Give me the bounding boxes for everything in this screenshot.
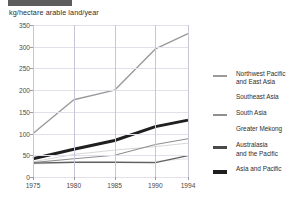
gridline-horizontal [33, 177, 188, 178]
gridline-horizontal [33, 68, 188, 69]
legend-swatch-icon [213, 75, 227, 77]
y-axis-tick-mark [30, 25, 33, 26]
legend-item[interactable]: Greater Mekong [213, 125, 291, 134]
series-line [33, 120, 188, 159]
legend-item-label: Southeast Asia [236, 93, 291, 101]
x-axis-tick-label: 1980 [66, 182, 81, 189]
y-axis-tick-labels: 050100150200250300350 [0, 25, 30, 177]
gridline-horizontal [33, 134, 188, 135]
series-line [33, 156, 188, 163]
legend-swatch-icon [213, 130, 227, 131]
legend-swatch-icon [213, 146, 227, 149]
series-lines [33, 25, 188, 177]
legend-item-label: Greater Mekong [236, 125, 291, 133]
y-axis-tick-mark [30, 155, 33, 156]
y-axis-tick-mark [30, 68, 33, 69]
y-axis-tick-label: 350 [19, 22, 30, 29]
legend-swatch-icon [213, 170, 227, 174]
y-axis-tick-label: 250 [19, 65, 30, 72]
legend-item[interactable]: Australasiaand the Pacific [213, 141, 291, 157]
gridline-horizontal [33, 47, 188, 48]
gridline-vertical [155, 25, 156, 177]
y-axis-unit-label: kg/hectare arable land/year [9, 8, 99, 17]
gridline-vertical [188, 25, 189, 177]
gridline-vertical [33, 25, 34, 177]
x-axis-tick-mark [155, 177, 156, 180]
legend-item[interactable]: Southeast Asia [213, 93, 291, 102]
chart-legend: Northwest Pacificand East AsiaSoutheast … [213, 70, 291, 181]
x-axis-tick-mark [188, 177, 189, 180]
y-axis-tick-label: 300 [19, 43, 30, 50]
y-axis-tick-label: 100 [19, 130, 30, 137]
y-axis-tick-label: 150 [19, 108, 30, 115]
gridline-horizontal [33, 90, 188, 91]
x-axis-tick-label: 1994 [181, 182, 196, 189]
gridline-vertical [74, 25, 75, 177]
x-axis-tick-mark [33, 177, 34, 180]
y-axis-tick-mark [30, 90, 33, 91]
gridline-horizontal [33, 112, 188, 113]
chart-figure: kg/hectare arable land/year 050100150200… [0, 0, 291, 200]
gridline-horizontal [33, 25, 188, 26]
y-axis-tick-mark [30, 112, 33, 113]
x-axis-tick-label: 1985 [107, 182, 122, 189]
plot-area [33, 25, 188, 177]
x-axis-tick-label: 1990 [148, 182, 163, 189]
legend-item-label: South Asia [236, 109, 291, 117]
x-axis-tick-label: 1975 [26, 182, 41, 189]
series-line [33, 34, 188, 134]
legend-item-label: Northwest Pacificand East Asia [236, 70, 291, 86]
gridline-vertical [115, 25, 116, 177]
legend-swatch-icon [213, 114, 227, 116]
legend-item-label: Australasiaand the Pacific [236, 141, 291, 157]
legend-item[interactable]: South Asia [213, 109, 291, 118]
y-axis-tick-mark [30, 47, 33, 48]
header-strip [8, 0, 72, 6]
y-axis-tick-label: 50 [23, 152, 30, 159]
legend-item[interactable]: Northwest Pacificand East Asia [213, 70, 291, 86]
x-axis-tick-mark [115, 177, 116, 180]
legend-item-label: Asia and Pacific [236, 165, 291, 173]
y-axis-tick-mark [30, 134, 33, 135]
legend-item[interactable]: Asia and Pacific [213, 165, 291, 174]
x-axis-tick-mark [74, 177, 75, 180]
gridline-horizontal [33, 155, 188, 156]
legend-swatch-icon [213, 98, 227, 99]
y-axis-tick-label: 200 [19, 87, 30, 94]
